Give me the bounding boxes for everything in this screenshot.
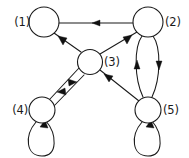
edge-5-to-3: [100, 70, 139, 101]
edge-2-to-1: [59, 20, 133, 26]
node-label-3: (3): [104, 55, 120, 69]
edge-3-to-4: [50, 68, 79, 99]
edge-3-to-2: [100, 32, 137, 54]
node-label-4: (4): [12, 103, 28, 117]
node-3[interactable]: [78, 50, 103, 75]
node-label-2: (2): [165, 15, 181, 29]
node-1[interactable]: [29, 7, 59, 37]
self-loop-4: [28, 120, 54, 156]
node-5[interactable]: [135, 97, 161, 123]
graph-figure: (1) (2) (3) (4) (5): [0, 0, 189, 158]
edge-5-to-2: [134, 36, 143, 97]
edge-2-to-5: [152, 36, 162, 97]
node-2[interactable]: [133, 7, 163, 37]
node-4[interactable]: [29, 97, 55, 123]
self-loop-5: [134, 120, 160, 156]
node-label-1: (1): [14, 15, 30, 29]
directed-graph-canvas: (1) (2) (3) (4) (5): [0, 0, 189, 158]
node-label-5: (5): [163, 103, 179, 117]
edge-3-to-1: [54, 33, 81, 52]
